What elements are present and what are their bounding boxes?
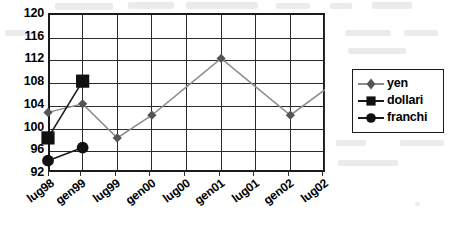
x-axis-tick-label: lug99 — [90, 176, 123, 205]
x-axis: lug98 gen99 lug99 gen00 lug00 gen01 lug0… — [48, 172, 325, 228]
data-point-circle — [77, 142, 89, 154]
data-point-square — [41, 131, 54, 144]
x-axis-tick-label: gen02 — [261, 176, 296, 207]
data-point-diamond — [43, 108, 52, 117]
legend-entry-yen[interactable]: yen — [358, 75, 437, 92]
x-axis-tick-label: lug01 — [229, 176, 262, 205]
data-point-square — [76, 75, 89, 88]
x-axis-tick-label: lug00 — [160, 176, 193, 205]
legend-marker-circle-icon — [358, 110, 384, 126]
legend-entry-dollari[interactable]: dollari — [358, 92, 437, 109]
series-yen — [43, 54, 325, 143]
x-axis-tick-label: gen99 — [53, 176, 88, 207]
x-axis-tick-label: gen01 — [192, 176, 227, 207]
x-axis-tick-label: gen00 — [122, 176, 157, 207]
legend-marker-square-icon — [358, 93, 384, 109]
line-chart: 120 116 112 108 104 100 96 92 lug98 — [0, 0, 450, 228]
data-point-circle — [42, 155, 54, 167]
series-line-dollari — [48, 81, 83, 138]
legend-label-yen: yen — [384, 77, 408, 90]
chart-legend: yen dollari franchi — [352, 69, 444, 133]
x-axis-tick — [322, 170, 323, 176]
legend-label-dollari: dollari — [384, 94, 423, 107]
legend-label-franchi: franchi — [384, 111, 427, 124]
x-axis-tick — [115, 170, 116, 176]
x-axis-tick — [80, 170, 81, 176]
series-franchi — [42, 142, 88, 167]
series-line-yen — [48, 58, 325, 137]
legend-entry-franchi[interactable]: franchi — [358, 109, 437, 126]
legend-marker-diamond-icon — [358, 76, 384, 92]
